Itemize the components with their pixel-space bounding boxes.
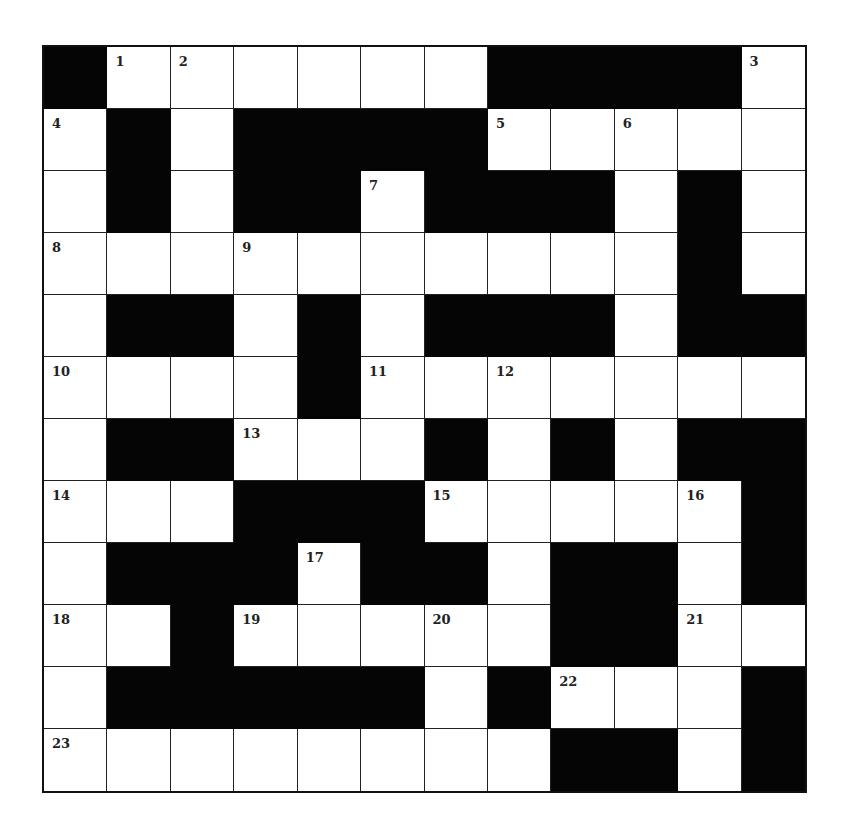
crossword-grid: 1234567891011121314151617181920212223 xyxy=(42,45,807,793)
crossword-cell[interactable]: 17 xyxy=(298,543,361,605)
crossword-cell[interactable] xyxy=(171,109,234,171)
crossword-cell[interactable] xyxy=(678,667,741,729)
crossword-cell[interactable]: 9 xyxy=(234,233,297,295)
crossword-cell[interactable] xyxy=(678,543,741,605)
crossword-cell[interactable] xyxy=(171,729,234,791)
crossword-cell[interactable] xyxy=(551,481,614,543)
crossword-cell[interactable] xyxy=(425,729,488,791)
crossword-cell[interactable] xyxy=(551,233,614,295)
crossword-cell[interactable] xyxy=(234,47,297,109)
crossword-cell[interactable]: 19 xyxy=(234,605,297,667)
crossword-cell[interactable] xyxy=(298,605,361,667)
crossword-cell[interactable] xyxy=(44,543,107,605)
crossword-cell[interactable] xyxy=(425,357,488,419)
crossword-cell[interactable]: 2 xyxy=(171,47,234,109)
crossword-cell[interactable] xyxy=(678,357,741,419)
crossword-cell[interactable]: 20 xyxy=(425,605,488,667)
crossword-cell[interactable] xyxy=(488,419,551,481)
clue-number: 18 xyxy=(52,613,70,626)
crossword-cell[interactable] xyxy=(488,605,551,667)
crossword-cell[interactable]: 6 xyxy=(615,109,678,171)
crossword-cell[interactable] xyxy=(234,357,297,419)
clue-number: 10 xyxy=(52,365,70,378)
crossword-cell[interactable]: 22 xyxy=(551,667,614,729)
crossword-cell[interactable] xyxy=(615,481,678,543)
crossword-cell[interactable] xyxy=(298,233,361,295)
crossword-cell[interactable] xyxy=(361,295,424,357)
crossword-cell[interactable]: 8 xyxy=(44,233,107,295)
crossword-cell[interactable] xyxy=(615,419,678,481)
crossword-cell[interactable] xyxy=(361,47,424,109)
crossword-cell[interactable]: 4 xyxy=(44,109,107,171)
crossword-cell[interactable]: 5 xyxy=(488,109,551,171)
crossword-cell[interactable]: 14 xyxy=(44,481,107,543)
crossword-cell[interactable] xyxy=(615,171,678,233)
crossword-cell[interactable] xyxy=(298,729,361,791)
crossword-cell[interactable] xyxy=(615,233,678,295)
clue-number: 2 xyxy=(179,55,188,68)
crossword-cell[interactable] xyxy=(107,605,170,667)
crossword-cell[interactable] xyxy=(615,667,678,729)
crossword-cell[interactable] xyxy=(488,233,551,295)
crossword-cell[interactable] xyxy=(234,729,297,791)
crossword-cell[interactable] xyxy=(171,481,234,543)
crossword-cell[interactable]: 16 xyxy=(678,481,741,543)
crossword-cell[interactable] xyxy=(425,667,488,729)
crossword-cell[interactable]: 12 xyxy=(488,357,551,419)
crossword-cell[interactable]: 23 xyxy=(44,729,107,791)
crossword-cell[interactable]: 13 xyxy=(234,419,297,481)
crossword-cell[interactable] xyxy=(615,357,678,419)
crossword-cell[interactable] xyxy=(361,605,424,667)
crossword-cell[interactable] xyxy=(678,729,741,791)
crossword-cell[interactable] xyxy=(488,729,551,791)
crossword-cell[interactable]: 7 xyxy=(361,171,424,233)
crossword-cell[interactable] xyxy=(742,109,805,171)
black-square xyxy=(107,295,170,357)
crossword-cell[interactable] xyxy=(425,233,488,295)
crossword-cell[interactable] xyxy=(44,667,107,729)
crossword-cell[interactable]: 18 xyxy=(44,605,107,667)
crossword-cell[interactable] xyxy=(361,419,424,481)
crossword-cell[interactable]: 11 xyxy=(361,357,424,419)
crossword-cell[interactable] xyxy=(234,295,297,357)
crossword-cell[interactable] xyxy=(171,171,234,233)
crossword-cell[interactable] xyxy=(44,419,107,481)
crossword-cell[interactable] xyxy=(551,357,614,419)
black-square xyxy=(488,667,551,729)
black-square xyxy=(742,543,805,605)
crossword-cell[interactable] xyxy=(425,47,488,109)
crossword-cell[interactable] xyxy=(742,233,805,295)
crossword-cell[interactable] xyxy=(488,543,551,605)
crossword-cell[interactable] xyxy=(107,233,170,295)
crossword-cell[interactable] xyxy=(742,357,805,419)
crossword-cell[interactable] xyxy=(44,171,107,233)
crossword-cell[interactable] xyxy=(361,729,424,791)
black-square xyxy=(425,543,488,605)
crossword-cell[interactable] xyxy=(171,233,234,295)
black-square xyxy=(615,543,678,605)
crossword-cell[interactable]: 21 xyxy=(678,605,741,667)
crossword-cell[interactable]: 15 xyxy=(425,481,488,543)
crossword-cell[interactable] xyxy=(615,295,678,357)
crossword-cell[interactable] xyxy=(298,47,361,109)
crossword-cell[interactable]: 1 xyxy=(107,47,170,109)
crossword-cell[interactable] xyxy=(171,357,234,419)
clue-number: 6 xyxy=(623,117,632,130)
crossword-cell[interactable] xyxy=(742,605,805,667)
crossword-cell[interactable] xyxy=(107,729,170,791)
crossword-cell[interactable]: 10 xyxy=(44,357,107,419)
crossword-cell[interactable] xyxy=(678,109,741,171)
crossword-cell[interactable] xyxy=(107,481,170,543)
crossword-cell[interactable] xyxy=(44,295,107,357)
black-square xyxy=(551,419,614,481)
black-square xyxy=(234,667,297,729)
clue-number: 14 xyxy=(52,489,70,502)
crossword-cell[interactable] xyxy=(551,109,614,171)
crossword-cell[interactable] xyxy=(361,233,424,295)
crossword-cell[interactable]: 3 xyxy=(742,47,805,109)
black-square xyxy=(551,171,614,233)
crossword-cell[interactable] xyxy=(488,481,551,543)
crossword-cell[interactable] xyxy=(298,419,361,481)
crossword-cell[interactable] xyxy=(107,357,170,419)
crossword-cell[interactable] xyxy=(742,171,805,233)
